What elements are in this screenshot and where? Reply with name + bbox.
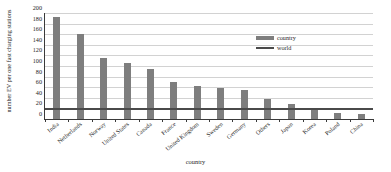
y-tick-label: 20 (20, 100, 42, 106)
bar-chart-figure: number EV per one fast charging stations… (0, 0, 391, 172)
world-reference-line (45, 108, 373, 110)
bar (77, 34, 84, 119)
y-tick-label: 80 (20, 68, 42, 74)
y-tick-label: 40 (20, 90, 42, 96)
y-axis-title: number EV per one fast charging stations (6, 0, 12, 122)
bar (194, 86, 201, 119)
legend-bar-swatch-icon (256, 36, 274, 39)
bar (241, 90, 248, 119)
x-axis-title: country (0, 158, 391, 165)
y-tick-label: 60 (20, 79, 42, 85)
y-axis-tick-labels: 020406080100120140160180200 (20, 8, 42, 123)
bar (170, 82, 177, 119)
y-tick-label: 160 (20, 26, 42, 32)
bar (334, 113, 341, 119)
bar (217, 88, 224, 119)
bar (311, 109, 318, 119)
y-tick-label: 200 (20, 5, 42, 11)
legend-line-swatch-icon (256, 47, 274, 49)
legend-label: country (277, 35, 296, 41)
legend-label: world (277, 45, 291, 51)
y-tick-label: 0 (20, 111, 42, 117)
bar (147, 69, 154, 119)
legend-item: country (256, 34, 296, 42)
bars-layer (45, 13, 373, 119)
x-axis-tick-labels: IndiaNetherlandsNorwayUnited StatesCanad… (44, 121, 372, 161)
x-tick-mark (373, 119, 374, 122)
bar (358, 114, 365, 119)
y-tick-label: 180 (20, 15, 42, 21)
y-tick-label: 140 (20, 37, 42, 43)
legend-item: world (256, 44, 291, 52)
bar (288, 104, 295, 119)
plot-area (44, 13, 373, 120)
y-tick-label: 100 (20, 58, 42, 64)
chart-legend: countryworld (256, 34, 338, 56)
bar (53, 17, 60, 119)
y-tick-label: 120 (20, 47, 42, 53)
bar (124, 63, 131, 119)
